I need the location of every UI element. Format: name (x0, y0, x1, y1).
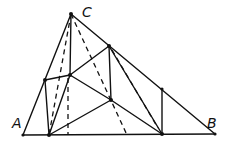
segment-p3-p4 (109, 46, 111, 100)
point-p5 (160, 87, 163, 90)
label-c: C (82, 4, 92, 20)
segment-c-p2 (70, 14, 71, 75)
geometry-diagram: A B C (0, 0, 234, 155)
point-p2 (68, 73, 72, 77)
segment-p4-d2 (111, 100, 162, 134)
segment-p2-d1 (49, 75, 70, 135)
point-a (21, 133, 24, 136)
label-a: A (11, 115, 22, 131)
side-cb (71, 14, 215, 134)
point-d2 (160, 132, 164, 136)
point-b (213, 132, 216, 135)
point-p1 (43, 78, 47, 82)
label-b: B (207, 115, 217, 131)
segment-p1-p2 (45, 75, 70, 80)
segment-p2-p3 (70, 46, 109, 75)
point-c (69, 12, 73, 16)
segment-p1-d1 (45, 80, 49, 135)
point-p4 (109, 98, 113, 102)
segment-p2-p4 (70, 75, 111, 100)
point-p3 (107, 44, 111, 48)
dashed-c-foot (71, 14, 127, 135)
segment-d1-p4 (49, 100, 111, 135)
point-d1 (47, 133, 51, 137)
